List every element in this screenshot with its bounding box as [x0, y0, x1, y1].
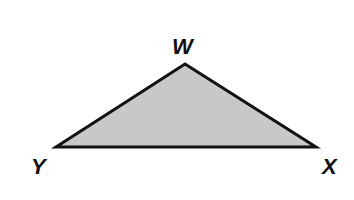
diagram-canvas: W Y X: [0, 0, 354, 200]
vertex-label-w: W: [172, 36, 193, 58]
triangle-figure: [0, 0, 354, 200]
vertex-label-y: Y: [31, 156, 46, 178]
vertex-label-x: X: [322, 156, 337, 178]
triangle-wxy: [56, 64, 316, 147]
